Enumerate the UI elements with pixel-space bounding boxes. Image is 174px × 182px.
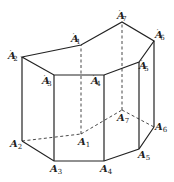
label-A5: A5 [137, 149, 150, 162]
label-A4: A4 [99, 163, 113, 176]
label-A4p: A′4 [90, 74, 101, 88]
label-A5p: A′5 [138, 59, 149, 73]
vertex-labels: A′7 A′6 A′1 A′2 A′5 A′3 A′4 A7 A6 A1 A2 … [7, 9, 168, 176]
edge-A1-A7 [81, 110, 122, 134]
label-A6p: A′6 [154, 28, 165, 42]
label-A1: A1 [77, 136, 90, 149]
label-A2p: A′2 [7, 49, 18, 63]
top-face [22, 22, 154, 75]
label-A3: A3 [49, 163, 62, 176]
label-A7p: A′7 [116, 9, 127, 23]
edge-A2-A1 [22, 134, 81, 141]
label-A7: A7 [116, 112, 129, 125]
label-A3p: A′3 [41, 74, 52, 88]
prism-diagram: A′7 A′6 A′1 A′2 A′5 A′3 A′4 A7 A6 A1 A2 … [0, 0, 174, 182]
label-A1p: A′1 [70, 32, 81, 46]
label-A6: A6 [154, 121, 168, 134]
label-A2: A2 [9, 138, 22, 151]
